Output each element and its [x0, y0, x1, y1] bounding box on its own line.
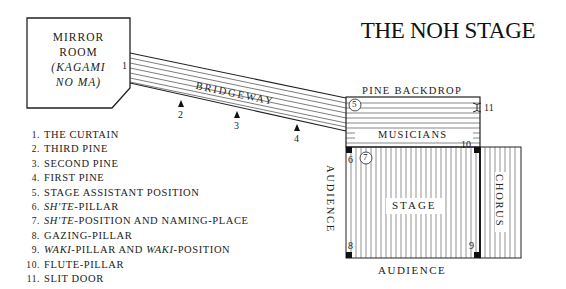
legend-item: 8.GAZING-PILLAR: [18, 229, 249, 243]
pine-backdrop-label: PINE BACKDROP: [362, 85, 462, 96]
pine-marker-4: [294, 124, 300, 131]
marker-7: 7: [363, 152, 368, 162]
marker-6: 6: [348, 154, 353, 165]
musicians-label: MUSICIANS: [378, 129, 447, 140]
mirror-room-label: MIRROR ROOM (KAGAMI NO MA): [27, 30, 130, 90]
marker-11: 11: [484, 102, 494, 113]
audience-bottom-label: AUDIENCE: [378, 264, 446, 276]
legend-item: 4.FIRST PINE: [18, 171, 249, 185]
legend-item: 11.SLIT DOOR: [18, 272, 249, 286]
legend-item: 9.WAKI-PILLAR AND WAKI-POSITION: [18, 243, 249, 257]
mirror-room-line2: ROOM: [27, 45, 130, 60]
marker-2: 2: [178, 109, 183, 120]
flute-pillar: [474, 147, 480, 153]
legend-item: 3.SECOND PINE: [18, 157, 249, 171]
pine-marker-2: [178, 100, 184, 107]
marker-4: 4: [294, 133, 299, 144]
marker-1: 1: [122, 60, 127, 71]
gazing-pillar: [346, 252, 352, 258]
legend: 1.THE CURTAIN 2.THIRD PINE 3.SECOND PINE…: [18, 128, 249, 286]
chorus-label: CHORUS: [494, 174, 505, 227]
waki-pillar: [474, 252, 480, 258]
shite-pillar: [346, 147, 352, 153]
legend-item: 2.THIRD PINE: [18, 142, 249, 156]
legend-item: 10.FLUTE-PILLAR: [18, 258, 249, 272]
page-title: THE NOH STAGE: [333, 18, 563, 44]
mirror-room-line4: NO MA): [56, 76, 101, 88]
pine-marker-3: [234, 111, 240, 118]
legend-item: 1.THE CURTAIN: [18, 128, 249, 142]
legend-item: 6.SH'TE-PILLAR: [18, 200, 249, 214]
mirror-room-line3: (KAGAMI: [51, 61, 105, 73]
audience-left-label: AUDIENCE: [325, 165, 336, 233]
marker-9: 9: [469, 240, 474, 251]
marker-5: 5: [352, 99, 357, 109]
legend-item: 5.STAGE ASSISTANT POSITION: [18, 186, 249, 200]
legend-item: 7.SH'TE-POSITION AND NAMING-PLACE: [18, 214, 249, 228]
marker-8: 8: [348, 240, 353, 251]
stage-label: STAGE: [392, 199, 437, 211]
marker-10: 10: [461, 139, 471, 150]
mirror-room-line1: MIRROR: [27, 30, 130, 45]
